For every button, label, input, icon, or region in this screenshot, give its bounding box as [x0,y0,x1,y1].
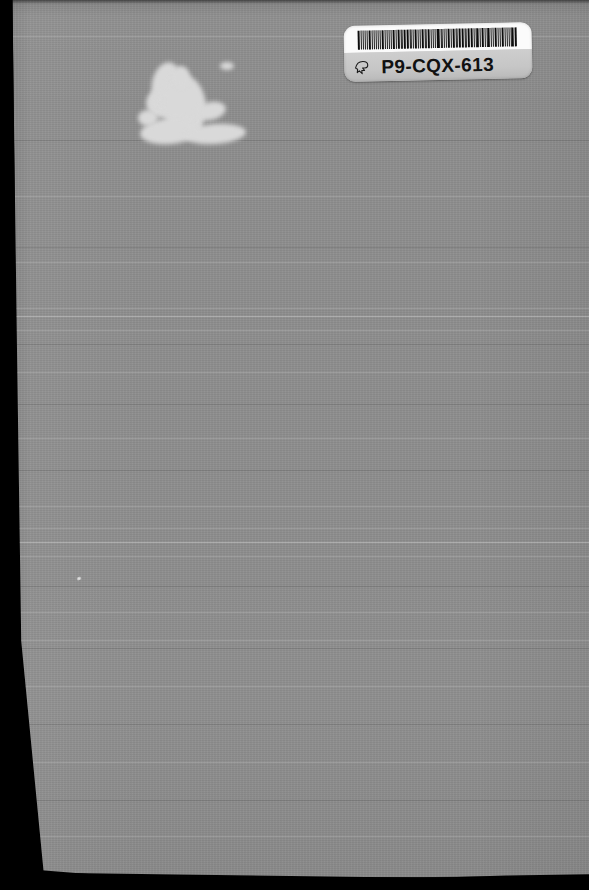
scanner-streak [0,404,589,405]
scanner-streak [0,556,589,557]
barcode-bar [468,28,471,47]
barcode-bar [428,29,431,48]
barcode-bar [461,28,464,47]
scanner-streak [0,344,589,345]
barcode-bar [437,29,440,48]
scanner-streak [0,542,589,543]
barcode-bar [403,30,406,49]
barcode-bar [414,29,417,48]
bright-speck [77,576,82,580]
barcode-bar [494,28,497,47]
scanner-streak [0,330,589,331]
scanner-streak [0,528,589,529]
scanner-streaks [0,0,589,890]
barcode-bar [382,30,385,49]
scanner-streak [0,438,589,439]
barcode-bar [368,30,371,49]
scanner-streak [0,686,589,687]
barcode-bar [501,28,504,47]
white-scuff-mark [138,58,242,144]
scanner-streak [0,308,589,309]
scanner-streak [0,470,589,471]
scanner-streak [0,247,589,248]
barcode-bar [448,29,451,48]
scanner-streak [0,724,589,725]
label-code-text: P9-CQX-613 [381,55,494,76]
scanner-streak [0,196,589,197]
barcode-bar [358,31,361,50]
scanner-streak [0,640,589,641]
scanner-streak [0,506,589,507]
scanner-streak [0,586,589,587]
scanner-streak [0,262,589,263]
book-cover-surface [0,0,589,890]
scanner-streak [0,762,589,763]
barcode-stripes [358,27,518,49]
scanner-streak [0,800,589,801]
cover-grain-texture [0,0,589,890]
barcode-bar [393,30,396,49]
pointing-hand-icon [353,58,373,76]
label-caption-row: P9-CQX-613 [344,49,533,82]
scanner-streak [0,612,589,613]
scan-top-shadow [0,0,589,4]
scanner-streak [0,372,589,373]
scanner-streak [0,648,589,649]
library-barcode-label[interactable]: P9-CQX-613 [343,22,532,82]
barcode-bar [481,28,484,47]
scanner-streak [0,316,589,317]
cover-shading [0,0,589,890]
scanner-streak [0,140,589,141]
scanned-page-image: P9-CQX-613 [0,0,589,890]
barcode-bar [514,27,517,46]
scanner-streak [0,836,589,837]
